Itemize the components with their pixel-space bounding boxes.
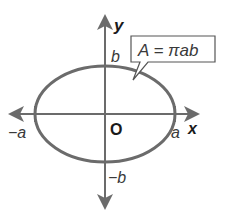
label-pos-b: b bbox=[111, 48, 120, 65]
label-pos-a: a bbox=[171, 124, 180, 141]
origin-label: O bbox=[110, 121, 122, 138]
formula-text: A = πab bbox=[137, 41, 198, 60]
y-axis-label: y bbox=[113, 16, 125, 35]
ellipse-diagram: A = πab y x O b −b a −a bbox=[0, 0, 229, 212]
label-neg-a: −a bbox=[8, 124, 26, 141]
label-neg-b: −b bbox=[108, 169, 126, 186]
x-axis-label: x bbox=[187, 120, 198, 137]
